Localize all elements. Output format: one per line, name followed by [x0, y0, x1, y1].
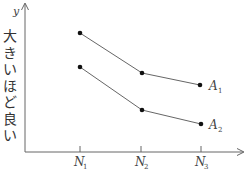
data-point: [198, 83, 203, 88]
svg-text:2: 2: [218, 126, 222, 134]
series-label-a1: A 1: [208, 79, 222, 95]
chart-plot: y N 1 N 2 N 3 A 1: [0, 0, 246, 175]
line-chart: 大きいほど良い y N 1 N 2 N 3: [0, 0, 246, 175]
y-axis-symbol: y: [12, 5, 20, 18]
series-a1: A 1: [78, 31, 223, 95]
data-point: [140, 108, 145, 113]
series-label-a2: A 2: [208, 118, 222, 134]
svg-text:2: 2: [144, 163, 148, 171]
data-point: [78, 31, 83, 36]
svg-text:3: 3: [204, 163, 208, 171]
y-axis-label: 大きいほど良い: [2, 28, 18, 144]
x-tick-label-n3: N 3: [194, 155, 208, 171]
svg-text:A: A: [208, 118, 218, 132]
data-point: [140, 71, 145, 76]
svg-text:A: A: [208, 79, 218, 93]
data-point: [78, 65, 83, 70]
svg-text:1: 1: [83, 163, 87, 171]
x-tick-label-n2: N 2: [134, 155, 148, 171]
svg-text:1: 1: [218, 87, 222, 95]
data-point: [199, 122, 204, 127]
x-tick-label-n1: N 1: [73, 155, 87, 171]
